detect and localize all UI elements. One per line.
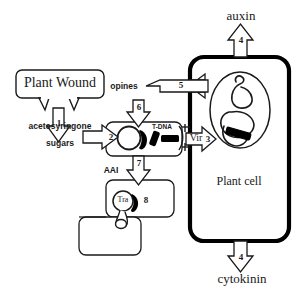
auxin-label: auxin [214,9,268,22]
step-number-6: 6 [134,103,144,112]
opines-label: opines [102,82,146,91]
sugars-label: sugars [8,139,112,148]
cytokinin-label: cytokinin [203,272,281,285]
diagram-canvas: Plant Wound acetosyringone sugars opines… [0,0,297,297]
step-number-8: 8 [141,196,151,205]
aai-label: AAI [95,166,127,175]
step-number-5: 5 [176,81,186,90]
step-number-4-cytokinin: 4 [236,253,246,262]
step-number-3: 3 [203,135,213,144]
step-number-7: 7 [134,159,144,168]
plant-wound-label: Plant Wound [22,76,98,90]
bacterium-chromosome-circle [118,127,141,150]
step-number-4-auxin: 4 [236,36,246,45]
bacterium-recipient-second-body [79,217,141,255]
tra-label: Tra [112,196,134,204]
diagram-vector-layer [0,0,297,297]
step-number-1: 1 [54,119,64,128]
plant-cell-label: Plant cell [202,175,276,187]
t-dna-label: T-DNA [143,124,181,131]
tdna-black-bar [161,135,179,142]
step-number-2: 2 [106,133,116,142]
